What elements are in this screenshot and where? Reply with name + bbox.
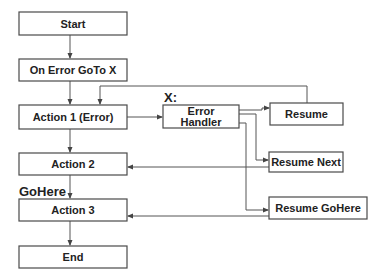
- arrow-resume-to-action1: [100, 86, 307, 104]
- node-end-label: End: [63, 251, 84, 263]
- node-on-error-label: On Error GoTo X: [30, 64, 117, 76]
- node-resume-next-label: Resume Next: [271, 156, 341, 168]
- arrow-handler-to-resume: [239, 108, 269, 110]
- flowchart: Start On Error GoTo X Action 1 (Error) A…: [0, 0, 378, 280]
- x-label: X:: [164, 90, 177, 105]
- node-error-handler-line2: Handler: [181, 116, 223, 128]
- arrow-handler-to-resume-next: [239, 114, 268, 160]
- node-start-label: Start: [60, 18, 85, 30]
- node-action3-label: Action 3: [51, 204, 94, 216]
- node-action2-label: Action 2: [51, 158, 94, 170]
- gohere-label: GoHere: [19, 184, 66, 199]
- node-action1-label: Action 1 (Error): [33, 111, 114, 123]
- node-resume-label: Resume: [285, 108, 328, 120]
- node-resume-gohere-label: Resume GoHere: [275, 202, 361, 214]
